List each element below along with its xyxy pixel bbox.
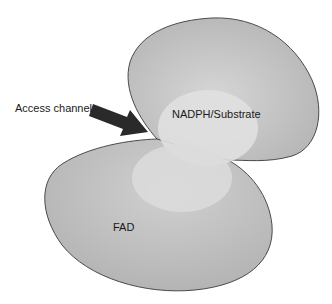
enzyme-domain-diagram	[0, 0, 332, 304]
access-channel-label: Access channel	[15, 103, 92, 114]
nadph-substrate-label: NADPH/Substrate	[172, 109, 261, 120]
fad-label: FAD	[113, 222, 134, 233]
binding-cavity-lower	[132, 144, 232, 212]
